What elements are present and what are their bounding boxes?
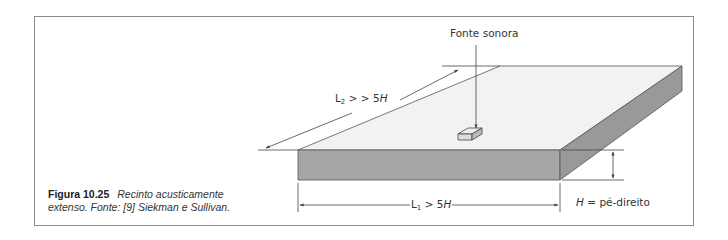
slab-front-face — [298, 150, 560, 180]
h-label: H = pé-direito — [576, 196, 650, 208]
l2-label: L2 > > 5H — [335, 92, 388, 106]
figure-number: Figura 10.25 — [48, 188, 109, 200]
sound-source-label: Fonte sonora — [450, 27, 518, 39]
figure-caption: Figura 10.25Recinto acusticamente extens… — [48, 188, 278, 214]
l1-label: L1 > 5H — [411, 198, 451, 212]
